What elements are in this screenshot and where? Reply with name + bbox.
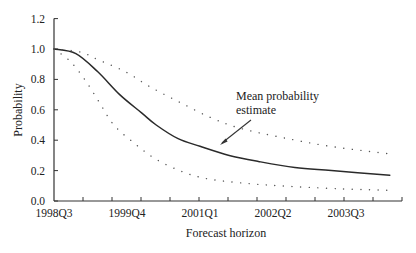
x-axis-title: Forecast horizon [186,226,266,240]
lower-band-line [54,49,390,190]
x-tick-label: 2003Q3 [327,207,364,219]
x-tick-label: 1998Q3 [35,207,72,219]
y-tick-label: 0.6 [31,104,46,116]
series-layer [54,49,390,190]
x-tick-label: 1999Q4 [108,207,145,219]
y-tick-label: 1.0 [31,43,46,55]
y-tick-label: 1.2 [31,13,46,25]
y-tick-label: 0.4 [31,134,46,146]
probability-chart: 0.00.20.40.60.81.01.21998Q31999Q42001Q12… [0,0,416,253]
annotation-text: Mean probability [236,89,319,103]
annotation-text: estimate [236,103,276,117]
x-tick-label: 2002Q2 [254,207,291,219]
y-tick-label: 0.8 [31,73,46,85]
axes: 0.00.20.40.60.81.01.21998Q31999Q42001Q12… [11,13,402,240]
upper-band-line [54,49,390,154]
annotation-layer: Mean probabilityestimate [220,89,319,145]
x-tick-label: 2001Q1 [181,207,218,219]
y-tick-label: 0.0 [31,195,46,207]
mean-probability-estimate-line [54,49,390,175]
y-axis-title: Probability [11,83,25,136]
y-tick-label: 0.2 [31,165,46,177]
